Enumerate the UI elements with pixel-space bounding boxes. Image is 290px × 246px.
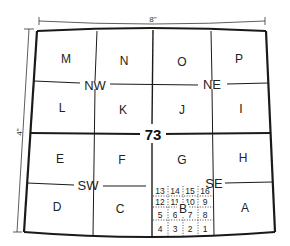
subsection-1: 1 [203,224,208,234]
subsection-13: 13 [155,186,165,196]
subsection-14: 14 [170,186,180,196]
cell-g: G [177,153,186,167]
cell-i: I [239,102,242,116]
width-label: 8" [149,15,156,24]
quadrant-sw: SW [78,178,100,193]
subsection-5: 5 [158,210,163,220]
vertical-center-line-top [152,30,153,124]
cell-o: O [177,55,186,69]
cell-j: J [179,103,185,117]
subsection-6: 6 [173,210,178,220]
cell-e: E [56,152,64,166]
subsection-9: 9 [203,197,208,207]
cell-n: N [120,54,129,68]
cell-l: L [59,101,66,115]
subsection-8: 8 [203,210,208,220]
subsection-4: 4 [158,224,163,234]
width-dimension: 8" [39,15,265,26]
cell-d: D [53,200,62,214]
cell-h: H [239,151,248,165]
subgrid-b: 13 14 15 16 12 11 10 9 5 6 7 8 4 3 2 1 B [153,186,213,236]
height-label: 4" [15,128,24,135]
horizontal-center-line [30,133,140,134]
quadrant-nw: NW [84,78,106,93]
cell-a: A [241,201,249,215]
cell-k: K [119,103,127,117]
cell-p: P [235,52,243,66]
subsection-16: 16 [200,186,210,196]
subsection-7: 7 [188,210,193,220]
cell-c: C [116,202,125,216]
subsection-12: 12 [155,197,165,207]
grid-diagram: 8" 4" 73 NW NE SW SE M N O P [0,0,290,246]
horizontal-center-line-right [160,133,271,134]
cell-b: B [179,202,187,216]
township-number: 73 [145,126,162,143]
cell-f: F [118,153,125,167]
cell-m: M [61,52,71,66]
subsection-3: 3 [173,224,178,234]
subsection-2: 2 [188,224,193,234]
quadrant-ne: NE [203,77,221,92]
subsection-15: 15 [185,186,195,196]
